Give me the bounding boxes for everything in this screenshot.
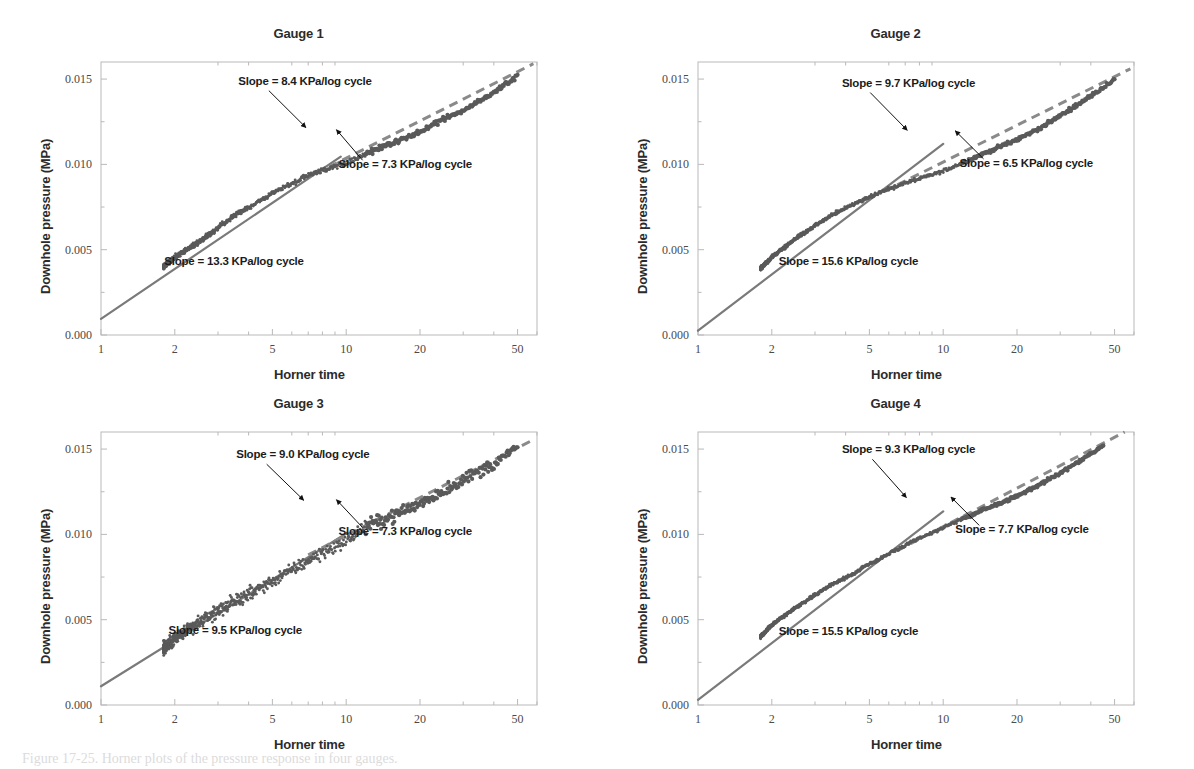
chart-panel-gauge-4: Gauge 4 Downhole pressure (MPa) Horner t…: [597, 390, 1194, 760]
annotation-slope-late: Slope = 7.3 KPa/log cycle: [339, 158, 472, 170]
annotation-slope-late: Slope = 7.7 KPa/log cycle: [955, 523, 1088, 535]
svg-text:0.015: 0.015: [65, 72, 92, 86]
svg-text:0.005: 0.005: [662, 243, 689, 257]
annotation-slope-mid: Slope = 9.7 KPa/log cycle: [842, 77, 975, 89]
svg-text:20: 20: [414, 712, 426, 726]
svg-text:2: 2: [172, 342, 178, 356]
svg-text:10: 10: [937, 712, 949, 726]
svg-text:1: 1: [695, 342, 701, 356]
svg-text:0.000: 0.000: [662, 698, 689, 712]
svg-text:0.000: 0.000: [65, 698, 92, 712]
svg-text:1: 1: [695, 712, 701, 726]
svg-text:0.000: 0.000: [65, 328, 92, 342]
svg-text:50: 50: [512, 712, 524, 726]
plot-area: 0.0000.0050.0100.015125102050Slope = 9.7…: [597, 20, 1194, 390]
svg-text:0.005: 0.005: [65, 613, 92, 627]
annotation-slope-early: Slope = 13.3 KPa/log cycle: [164, 255, 304, 267]
svg-text:50: 50: [1109, 342, 1121, 356]
svg-text:0.000: 0.000: [662, 328, 689, 342]
annotation-slope-late: Slope = 7.3 KPa/log cycle: [339, 525, 472, 537]
svg-text:2: 2: [769, 342, 775, 356]
plot-area: 0.0000.0050.0100.015125102050Slope = 9.3…: [597, 390, 1194, 760]
chart-panel-gauge-1: Gauge 1 Downhole pressure (MPa) Horner t…: [0, 20, 597, 390]
annotation-slope-mid: Slope = 9.3 KPa/log cycle: [842, 443, 975, 455]
plot-area: 0.0000.0050.0100.015125102050Slope = 8.4…: [0, 20, 597, 390]
svg-text:2: 2: [172, 712, 178, 726]
svg-text:0.005: 0.005: [662, 613, 689, 627]
svg-text:10: 10: [937, 342, 949, 356]
svg-text:0.005: 0.005: [65, 243, 92, 257]
svg-text:10: 10: [340, 342, 352, 356]
svg-text:5: 5: [866, 342, 872, 356]
svg-text:1: 1: [98, 712, 104, 726]
svg-text:2: 2: [769, 712, 775, 726]
annotation-slope-late: Slope = 6.5 KPa/log cycle: [960, 157, 1093, 169]
svg-text:20: 20: [1011, 712, 1023, 726]
svg-text:0.015: 0.015: [662, 442, 689, 456]
chart-panel-gauge-2: Gauge 2 Downhole pressure (MPa) Horner t…: [597, 20, 1194, 390]
svg-text:0.015: 0.015: [65, 442, 92, 456]
svg-text:0.015: 0.015: [662, 72, 689, 86]
figure-caption: Figure 17-25. Horner plots of the pressu…: [22, 751, 1172, 769]
svg-text:0.010: 0.010: [65, 157, 92, 171]
annotation-slope-early: Slope = 15.6 KPa/log cycle: [779, 255, 919, 267]
svg-text:50: 50: [512, 342, 524, 356]
figure-grid: Gauge 1 Downhole pressure (MPa) Horner t…: [0, 0, 1194, 740]
plot-area: 0.0000.0050.0100.015125102050Slope = 9.0…: [0, 390, 597, 760]
chart-panel-gauge-3: Gauge 3 Downhole pressure (MPa) Horner t…: [0, 390, 597, 760]
svg-text:20: 20: [1011, 342, 1023, 356]
svg-text:5: 5: [866, 712, 872, 726]
svg-text:0.010: 0.010: [662, 527, 689, 541]
svg-text:0.010: 0.010: [662, 157, 689, 171]
svg-text:5: 5: [269, 712, 275, 726]
annotation-slope-early: Slope = 15.5 KPa/log cycle: [779, 625, 919, 637]
svg-text:50: 50: [1109, 712, 1121, 726]
svg-text:0.010: 0.010: [65, 527, 92, 541]
svg-text:20: 20: [414, 342, 426, 356]
annotation-slope-early: Slope = 9.5 KPa/log cycle: [169, 624, 302, 636]
annotation-slope-mid: Slope = 8.4 KPa/log cycle: [238, 75, 371, 87]
svg-text:1: 1: [98, 342, 104, 356]
svg-text:10: 10: [340, 712, 352, 726]
svg-text:5: 5: [269, 342, 275, 356]
annotation-slope-mid: Slope = 9.0 KPa/log cycle: [236, 448, 369, 460]
